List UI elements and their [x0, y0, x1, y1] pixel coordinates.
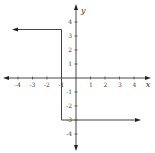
- x-tick-label: 1: [89, 81, 93, 88]
- y-axis-up-arrow-icon: [74, 4, 78, 10]
- curve-left-arrow-icon: [12, 28, 18, 32]
- y-axis: [74, 4, 78, 151]
- x-tick-label: -2: [44, 81, 50, 88]
- y-tick-label: 4: [68, 18, 72, 25]
- y-tick-label: 2: [68, 46, 72, 53]
- y-tick-labels: 4 3 2 1 -1 -2 -3 -4: [66, 18, 72, 137]
- x-tick-label: 3: [118, 81, 122, 88]
- x-axis-label: x: [146, 80, 151, 89]
- y-axis-label: y: [80, 6, 86, 15]
- x-axis: [3, 76, 151, 80]
- coordinate-graph: -4 -3 -2 -1 1 2 3 4 4 3 2 1 -1 -2 -3 -4 …: [0, 0, 155, 153]
- x-tick-label: -4: [15, 81, 21, 88]
- y-tick-label: -1: [66, 88, 72, 95]
- curve-right-arrow-icon: [135, 118, 141, 122]
- y-tick-label: 1: [68, 60, 72, 67]
- x-axis-left-arrow-icon: [3, 76, 9, 80]
- y-tick-label: -2: [66, 102, 72, 109]
- step-function-curve: [12, 28, 141, 123]
- x-tick-label: 2: [104, 81, 108, 88]
- x-tick-label: -3: [30, 81, 36, 88]
- y-tick-label: 3: [68, 32, 72, 39]
- y-tick-label: -4: [66, 130, 72, 137]
- y-axis-down-arrow-icon: [74, 145, 78, 151]
- x-tick-label: 4: [133, 81, 137, 88]
